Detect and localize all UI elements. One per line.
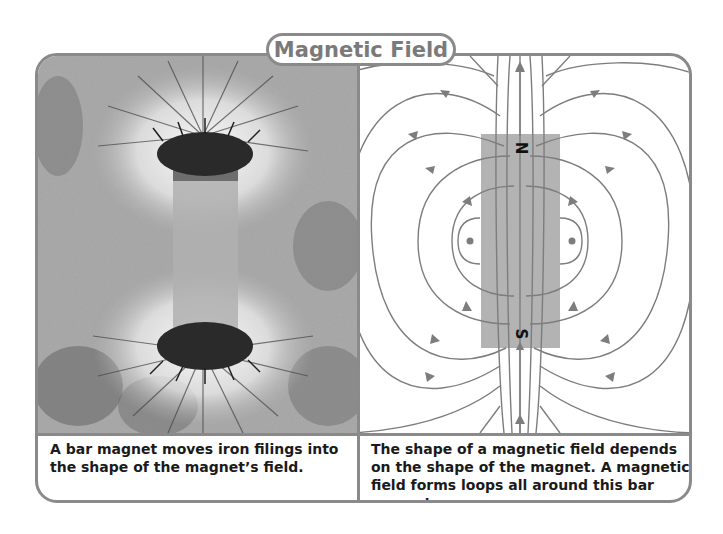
- focus-dot-left: [467, 238, 474, 245]
- focus-dot-right: [569, 238, 576, 245]
- figure-title: Magnetic Field: [266, 33, 456, 66]
- left-caption: A bar magnet moves iron filings into the…: [50, 440, 350, 476]
- north-pole-label: N: [512, 142, 530, 155]
- caption-divider: [38, 433, 692, 436]
- south-pole-label: S: [512, 329, 530, 340]
- field-line-diagram: N S: [360, 56, 689, 433]
- right-caption: The shape of a magnetic field depends on…: [371, 440, 691, 503]
- iron-filings-photo: [38, 56, 358, 433]
- figure-frame: N S A bar magnet moves iron filings into…: [35, 53, 692, 503]
